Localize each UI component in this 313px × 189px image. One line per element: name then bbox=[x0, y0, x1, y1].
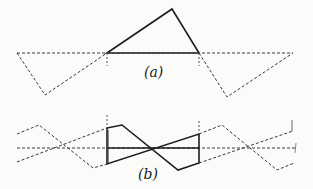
dashed-left-lower bbox=[17, 128, 107, 162]
panel-a bbox=[17, 9, 293, 97]
edge-mark-mid bbox=[295, 143, 296, 153]
dashed-left-triangle bbox=[17, 53, 107, 95]
diagram bbox=[0, 0, 313, 189]
dashed-right-triangle bbox=[199, 53, 293, 97]
solid-triangle bbox=[107, 9, 199, 53]
label-a: (a) bbox=[144, 64, 163, 80]
dashed-right-upper bbox=[199, 131, 293, 163]
panel-b bbox=[17, 115, 296, 170]
label-b: (b) bbox=[138, 166, 158, 182]
dashed-left-zigzag-upper bbox=[17, 125, 107, 168]
